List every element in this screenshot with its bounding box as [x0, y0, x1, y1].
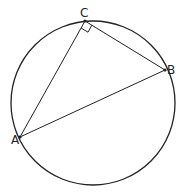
right-angle-marker [81, 25, 92, 32]
segment-AB [20, 70, 165, 137]
segment-AC [20, 21, 85, 137]
label-C: C [80, 6, 88, 20]
label-A: A [11, 133, 20, 147]
diagram-canvas: A B C [0, 0, 182, 194]
label-B: B [167, 63, 175, 77]
segment-CB [85, 21, 165, 70]
